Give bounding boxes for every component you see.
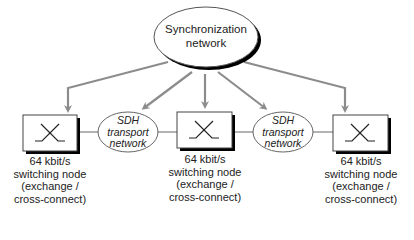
sdh-transport-label-1: SDH transport network bbox=[98, 115, 158, 150]
node-label-line: switching node bbox=[311, 168, 411, 181]
sync-network-label: Synchronization network bbox=[156, 22, 256, 50]
switching-node-box-1 bbox=[23, 115, 80, 154]
arrow-to-node-1 bbox=[68, 62, 168, 110]
node-label-line: cross-connect) bbox=[311, 193, 411, 206]
sdh-label-line: network bbox=[253, 138, 313, 150]
node-label-line: (exchange / bbox=[0, 180, 100, 193]
sdh-label-line: SDH bbox=[98, 115, 158, 127]
switching-node-box-3 bbox=[333, 115, 391, 154]
sync-label-line-2: network bbox=[156, 36, 256, 50]
node-label-line: (exchange / bbox=[311, 180, 411, 193]
switching-node-box-2 bbox=[177, 112, 235, 151]
node-label-line: cross-connect) bbox=[155, 191, 255, 204]
node-label-line: switching node bbox=[0, 168, 100, 181]
arrow-to-sdh-2 bbox=[218, 72, 265, 108]
node-label-line: switching node bbox=[155, 166, 255, 179]
arrow-to-sdh-1 bbox=[144, 72, 192, 108]
node-label-line: 64 kbit/s bbox=[0, 155, 100, 168]
switching-node-label-2: 64 kbit/s switching node (exchange / cro… bbox=[155, 153, 255, 203]
sdh-transport-label-2: SDH transport network bbox=[253, 115, 313, 150]
node-label-line: 64 kbit/s bbox=[311, 155, 411, 168]
switching-node-label-1: 64 kbit/s switching node (exchange / cro… bbox=[0, 155, 100, 205]
node-label-line: (exchange / bbox=[155, 178, 255, 191]
sdh-label-line: SDH bbox=[253, 115, 313, 127]
node-label-line: 64 kbit/s bbox=[155, 153, 255, 166]
sdh-label-line: network bbox=[98, 138, 158, 150]
switching-node-label-3: 64 kbit/s switching node (exchange / cro… bbox=[311, 155, 411, 205]
sync-label-line-1: Synchronization bbox=[156, 22, 256, 36]
node-label-line: cross-connect) bbox=[0, 193, 100, 206]
